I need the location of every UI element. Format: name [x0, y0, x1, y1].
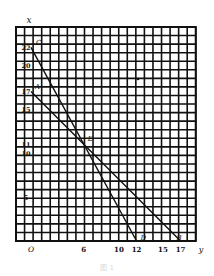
coordinate-diagram: CAEDB2220171511105O610121517xy: [0, 0, 214, 276]
point-label-b: B: [176, 234, 182, 242]
y-tick-label: 5: [24, 194, 29, 202]
vertical-axis-label: x: [26, 15, 31, 25]
point-label-c: C: [36, 39, 42, 47]
line-ab: [31, 91, 181, 241]
labels: CAEDB2220171511105O610121517xy: [21, 15, 203, 254]
grid: [16, 27, 196, 241]
x-tick-label: 15: [158, 245, 168, 254]
y-tick-label: 15: [21, 106, 31, 114]
point-label-d: D: [140, 234, 147, 242]
x-tick-label: 10: [114, 245, 124, 254]
horizontal-axis-label: y: [198, 245, 204, 254]
figure-caption: 图 1: [0, 262, 214, 272]
point-dot: [137, 78, 140, 81]
plotted-lines: [31, 47, 181, 241]
x-tick-label: 12: [132, 245, 142, 254]
x-tick-label: 17: [176, 245, 186, 254]
point-label-e: E: [87, 135, 93, 143]
y-tick-label: 22: [21, 44, 30, 52]
point-label-a: A: [34, 83, 40, 91]
y-tick-label: 20: [21, 62, 31, 70]
x-tick-label: 6: [81, 245, 86, 254]
y-tick-label: 11: [21, 141, 30, 149]
grid-border: [16, 27, 196, 241]
y-tick-label: 17: [21, 88, 30, 96]
origin-label: O: [28, 245, 34, 254]
y-tick-label: 10: [21, 150, 31, 158]
